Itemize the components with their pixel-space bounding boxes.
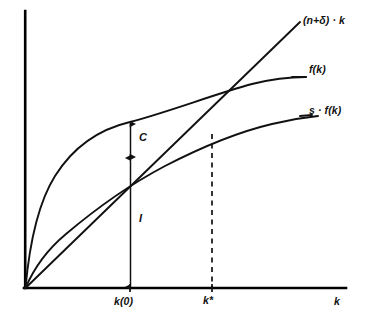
depreciation-line-curve [26, 22, 301, 288]
kstar-tick-label: k* [203, 294, 213, 306]
diagram-canvas [0, 0, 388, 325]
production-function-curve [26, 77, 307, 288]
axes-group [24, 11, 346, 288]
investment-label: I [139, 212, 142, 224]
x-axis-label: k [334, 295, 340, 307]
curves-group [26, 22, 319, 288]
consumption-label: C [139, 131, 147, 143]
production-function-label: f(k) [309, 63, 326, 75]
solow-diagram-figure: (n+δ) · k f(k) s · f(k) k k(0) k* C I [0, 0, 388, 325]
saving-function-label: s · f(k) [309, 104, 341, 116]
depreciation-line-label: (n+δ) · k [303, 14, 345, 26]
k0-tick-label: k(0) [114, 295, 133, 307]
saving-function-curve [26, 116, 319, 288]
